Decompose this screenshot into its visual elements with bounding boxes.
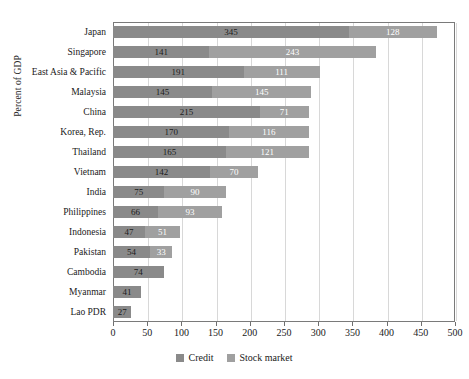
x-axis-tick-mark [147, 322, 148, 326]
legend-swatch-icon [227, 354, 235, 362]
bar-value-label: 121 [226, 146, 309, 158]
legend-item: Credit [176, 352, 213, 363]
y-axis-tick-label: Thailand [0, 146, 110, 158]
y-axis-tick-label: Singapore [0, 46, 110, 58]
chart-legend: CreditStock market [0, 352, 469, 363]
y-axis-tick-label: Lao PDR [0, 306, 110, 318]
legend-swatch-icon [176, 354, 184, 362]
bar-value-label: 54 [113, 246, 150, 258]
x-axis-tick-mark [250, 322, 251, 326]
bar-value-label: 33 [150, 246, 173, 258]
bar-row: 170116 [113, 126, 455, 138]
legend-item: Stock market [227, 352, 292, 363]
bar-row: 141243 [113, 46, 455, 58]
x-axis-tick-mark [455, 322, 456, 326]
bar-row: 165121 [113, 146, 455, 158]
y-axis-tick-label: Pakistan [0, 246, 110, 258]
y-axis-tick-label: Vietnam [0, 166, 110, 178]
x-axis-tick-mark [318, 322, 319, 326]
y-axis-tick-label: China [0, 106, 110, 118]
x-axis-tick-mark [284, 322, 285, 326]
bar-value-label: 142 [113, 166, 210, 178]
y-axis-tick-label: Malaysia [0, 86, 110, 98]
bar-value-label: 111 [244, 66, 320, 78]
x-axis: 050100150200250300350400450500 [113, 322, 455, 344]
bar-value-label: 93 [158, 206, 222, 218]
bar-value-label: 128 [349, 26, 437, 38]
bar-value-label: 71 [260, 106, 309, 118]
bar-value-label: 345 [113, 26, 349, 38]
bar-row: 21571 [113, 106, 455, 118]
bar-value-label: 74 [113, 266, 164, 278]
y-axis-tick-label: East Asia & Pacific [0, 66, 110, 78]
legend-label: Credit [188, 352, 213, 363]
bars-layer: 3451281412431911111451452157117011616512… [113, 22, 455, 322]
x-axis-tick-mark [113, 322, 114, 326]
bar-value-label: 243 [209, 46, 375, 58]
bar-value-label: 27 [113, 306, 131, 318]
bar-value-label: 75 [113, 186, 164, 198]
bar-row: 191111 [113, 66, 455, 78]
x-axis-tick-mark [181, 322, 182, 326]
bar-row: 6693 [113, 206, 455, 218]
bar-value-label: 116 [229, 126, 308, 138]
y-axis-category-labels: JapanSingaporeEast Asia & PacificMalaysi… [0, 22, 110, 322]
bar-row: 27 [113, 306, 455, 318]
bar-value-label: 51 [145, 226, 180, 238]
bar-value-label: 47 [113, 226, 145, 238]
bar-row: 5433 [113, 246, 455, 258]
bar-value-label: 215 [113, 106, 260, 118]
bar-row: 41 [113, 286, 455, 298]
bar-value-label: 70 [210, 166, 258, 178]
bar-row: 7590 [113, 186, 455, 198]
bar-value-label: 66 [113, 206, 158, 218]
x-axis-tick-mark [352, 322, 353, 326]
bar-value-label: 165 [113, 146, 226, 158]
stacked-bar-chart: Percent of GDP JapanSingaporeEast Asia &… [0, 0, 469, 379]
bar-value-label: 145 [212, 86, 311, 98]
x-axis-tick-mark [421, 322, 422, 326]
bar-row: 145145 [113, 86, 455, 98]
bar-value-label: 41 [113, 286, 141, 298]
bar-value-label: 145 [113, 86, 212, 98]
bar-value-label: 90 [164, 186, 226, 198]
gridline [456, 23, 457, 321]
y-axis-tick-label: Cambodia [0, 266, 110, 278]
bar-row: 14270 [113, 166, 455, 178]
bar-row: 74 [113, 266, 455, 278]
y-axis-tick-label: Indonesia [0, 226, 110, 238]
y-axis-tick-label: Korea, Rep. [0, 126, 110, 138]
bar-row: 345128 [113, 26, 455, 38]
y-axis-tick-label: Japan [0, 26, 110, 38]
bar-value-label: 141 [113, 46, 209, 58]
y-axis-tick-label: Philippines [0, 206, 110, 218]
x-axis-tick-mark [387, 322, 388, 326]
bar-value-label: 191 [113, 66, 244, 78]
legend-label: Stock market [239, 352, 292, 363]
y-axis-tick-label: India [0, 186, 110, 198]
x-axis-tick-mark [216, 322, 217, 326]
y-axis-tick-label: Myanmar [0, 286, 110, 298]
bar-value-label: 170 [113, 126, 229, 138]
x-axis-tick-label: 500 [435, 327, 469, 338]
bar-row: 4751 [113, 226, 455, 238]
